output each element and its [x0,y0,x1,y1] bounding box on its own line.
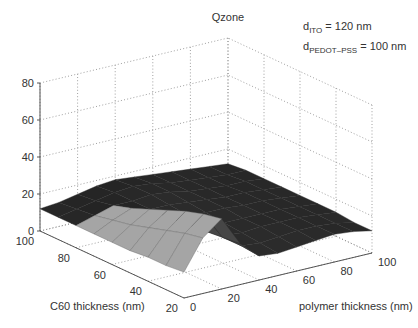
z-tick-label: 40 [22,151,34,163]
c60-tick-label: 40 [130,285,142,297]
z-tick-label: 20 [22,188,34,200]
back-wall-grid-line [40,112,228,157]
thickness-annotation: dPEDOT–PSS = 100 nm [303,40,406,55]
polymer-tick-label: 60 [303,274,315,286]
chart-title: Qzone [212,11,244,23]
polymer-tick-label: 80 [340,265,352,277]
qzone-surface-plot: 02040608020406080100020406080100 Qzone C… [0,0,418,328]
polymer-axis-label: polymer thickness (nm) [299,300,413,312]
c60-tick-label: 60 [94,269,106,281]
z-tick-label: 80 [22,77,34,89]
thickness-annotations: dITO = 120 nmdPEDOT–PSS = 100 nm [303,20,406,55]
back-wall-grid-line [40,75,228,120]
thickness-annotation: dITO = 120 nm [303,20,372,35]
c60-axis-label: C60 thickness (nm) [50,300,145,312]
surface-mesh [40,164,372,272]
z-tick-label: 60 [22,114,34,126]
c60-tick-label: 80 [58,252,70,264]
polymer-tick-label: 0 [190,301,196,313]
polymer-tick-label: 20 [228,292,240,304]
c60-tick-label: 100 [16,235,34,247]
polymer-tick-label: 40 [265,283,277,295]
c60-tick-label: 20 [166,302,178,314]
polymer-tick-label: 100 [378,256,396,268]
back-wall-grid-line [40,38,228,83]
